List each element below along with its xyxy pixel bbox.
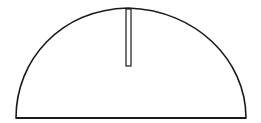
diagram-canvas <box>0 0 261 123</box>
diagram-svg <box>0 0 261 123</box>
vertical-slot <box>126 9 131 66</box>
